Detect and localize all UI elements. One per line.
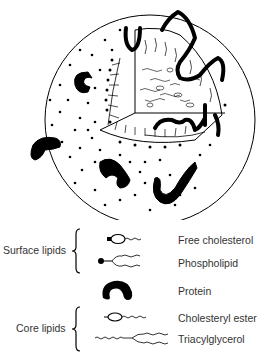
- phospholipid-icon: [96, 252, 144, 270]
- protein-blob: [75, 72, 92, 93]
- legend: Surface lipids Core lipids Free choleste…: [0, 220, 264, 357]
- group-label-core-lipids: Core lipids: [16, 322, 66, 334]
- protein-blob: [31, 137, 61, 160]
- legend-label-phospholipid: Phospholipid: [178, 257, 238, 269]
- legend-label-protein: Protein: [178, 285, 211, 297]
- cholesteryl-ester-icon: [103, 310, 155, 324]
- surface-lipids-brace-icon: [70, 228, 82, 274]
- triacylglycerol-icon: [94, 330, 172, 346]
- group-label-surface-lipids: Surface lipids: [3, 244, 66, 256]
- protein-blob: [153, 162, 197, 204]
- legend-label-cholesteryl-ester: Cholesteryl ester: [178, 312, 257, 324]
- legend-label-free-cholesterol: Free cholesterol: [178, 234, 253, 246]
- protein-icon: [100, 278, 136, 302]
- legend-label-triacylglycerol: Triacylglycerol: [178, 333, 245, 345]
- core-lipids-brace-icon: [70, 306, 82, 352]
- lipoprotein-diagram: [0, 0, 264, 220]
- protein-blob: [100, 159, 130, 188]
- free-cholesterol-icon: [104, 232, 144, 246]
- lipoprotein-particle-illustration: [0, 0, 264, 220]
